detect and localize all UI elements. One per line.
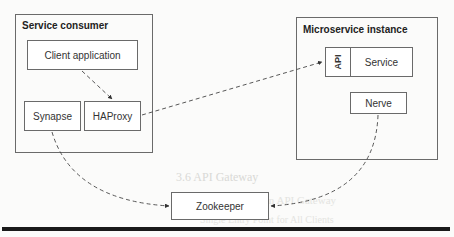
edge-client-to-haproxy: [82, 71, 112, 99]
edge-synapse-to-zookeeper: [52, 132, 169, 206]
edge-haproxy-to-api: [142, 62, 322, 115]
connector-layer: [0, 0, 454, 237]
horizontal-rule: [2, 227, 450, 231]
edge-nerve-to-zookeeper: [271, 115, 378, 206]
